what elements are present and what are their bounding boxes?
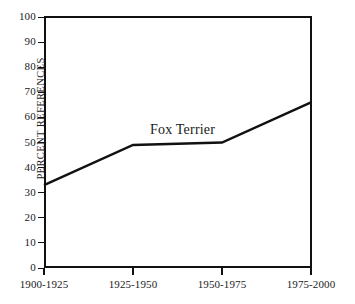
series-line — [44, 102, 311, 185]
series-label-fox-terrier: Fox Terrier — [150, 122, 215, 137]
line-chart: PERCENT REFERENCES 010203040506070809010… — [0, 0, 355, 304]
series-fox-terrier — [0, 0, 355, 304]
